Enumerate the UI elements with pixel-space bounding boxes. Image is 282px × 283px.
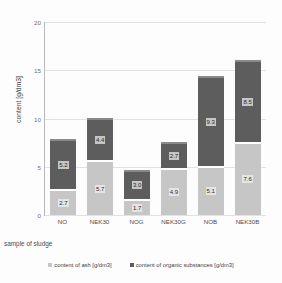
bar-group[interactable]: 8.57.6 — [235, 22, 261, 215]
bar-segment-organic[interactable]: 3.0 — [124, 170, 150, 199]
x-axis-tick-label: NEK30B — [235, 218, 261, 225]
bar-value-label: 5.2 — [58, 161, 68, 169]
bar-value-label: 2.7 — [58, 199, 68, 207]
bar-segment-organic[interactable]: 5.2 — [50, 139, 76, 189]
bar-value-label: 5.7 — [95, 185, 105, 193]
bar-segment-organic[interactable]: 4.4 — [87, 118, 113, 160]
x-axis-tick-label: NEK30 — [87, 218, 113, 225]
bar-group[interactable]: 2.74.9 — [161, 22, 187, 215]
x-axis-tick-label: NOG — [124, 218, 150, 225]
bar-value-label: 8.5 — [242, 98, 252, 106]
y-axis-tick-label: 20 — [34, 19, 41, 26]
bar-value-label: 4.9 — [169, 188, 179, 196]
bar-value-label: 5.1 — [206, 187, 216, 195]
bar-group[interactable]: 3.01.7 — [124, 22, 150, 215]
bar-value-label: 9.3 — [206, 118, 216, 126]
legend-item[interactable]: content of organic substances [g/dm3] — [130, 262, 234, 268]
bar-value-label: 3.0 — [132, 181, 142, 189]
x-axis-tick-label: NO — [50, 218, 76, 225]
legend-item[interactable]: content of ash [g/dm3] — [48, 262, 111, 268]
bar-segment-ash[interactable]: 7.6 — [235, 142, 261, 215]
x-axis-ticks: NONEK30NOGNEK30GNOBNEK30B — [44, 218, 266, 225]
bar-group[interactable]: 9.35.1 — [198, 22, 224, 215]
legend-label: content of organic substances [g/dm3] — [136, 262, 234, 268]
plot-area: 05101520 5.22.74.45.73.01.72.74.99.35.18… — [44, 22, 266, 216]
x-axis-tick-label: NEK30G — [161, 218, 187, 225]
bar-value-label: 4.4 — [95, 136, 105, 144]
bar-segment-organic[interactable]: 8.5 — [235, 60, 261, 142]
chart-legend: content of ash [g/dm3]content of organic… — [0, 262, 282, 268]
y-axis-tick-label: 10 — [34, 115, 41, 122]
bar-series-container: 5.22.74.45.73.01.72.74.99.35.18.57.6 — [45, 22, 266, 215]
x-axis-tick-label: NOB — [198, 218, 224, 225]
chart-figure: content [g/dm3] 05101520 5.22.74.45.73.0… — [0, 0, 282, 283]
legend-swatch — [48, 263, 52, 267]
bar-group[interactable]: 4.45.7 — [87, 22, 113, 215]
y-axis-title: content [g/dm3] — [15, 52, 22, 148]
legend-swatch — [130, 263, 134, 267]
bar-segment-ash[interactable]: 2.7 — [50, 189, 76, 215]
bar-segment-organic[interactable]: 9.3 — [198, 76, 224, 166]
x-axis-title: sample of sludge — [4, 240, 52, 247]
y-axis-tick-label: 0 — [38, 212, 41, 219]
bar-segment-organic[interactable]: 2.7 — [161, 142, 187, 168]
bar-group[interactable]: 5.22.7 — [50, 22, 76, 215]
y-axis-tick-label: 5 — [38, 163, 41, 170]
legend-label: content of ash [g/dm3] — [54, 262, 111, 268]
bar-segment-ash[interactable]: 5.7 — [87, 160, 113, 215]
bar-value-label: 7.6 — [242, 175, 252, 183]
gridline — [45, 215, 266, 216]
bar-value-label: 1.7 — [132, 204, 142, 212]
bar-segment-ash[interactable]: 1.7 — [124, 199, 150, 215]
bar-segment-ash[interactable]: 4.9 — [161, 168, 187, 215]
bar-segment-ash[interactable]: 5.1 — [198, 166, 224, 215]
y-axis-tick-label: 15 — [34, 67, 41, 74]
bar-value-label: 2.7 — [169, 152, 179, 160]
